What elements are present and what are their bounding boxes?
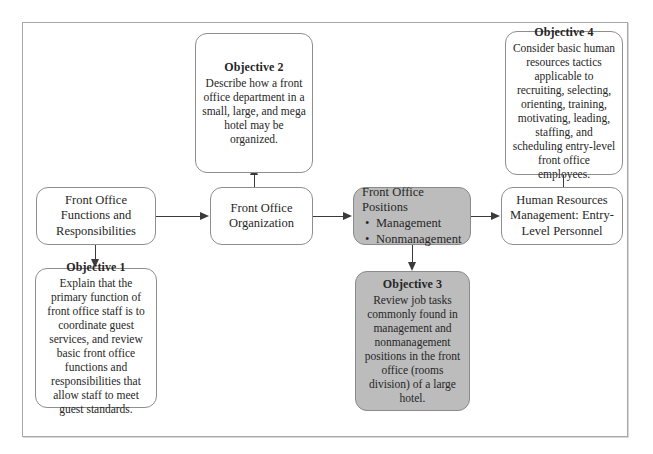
node-objective-4[interactable]: Objective 4 Consider basic human resourc… <box>505 31 623 175</box>
list-item-label: Management <box>376 216 441 230</box>
node-objective-2-title: Objective 2 <box>224 60 283 75</box>
node-front-office-organization[interactable]: Front Office Organization <box>210 187 313 245</box>
node-front-office-functions[interactable]: Front Office Functions and Responsibilit… <box>36 187 156 245</box>
bullet-icon: • <box>365 216 369 232</box>
node-front-office-positions-list: •Management •Nonmanagement <box>362 216 461 247</box>
node-objective-1-title: Objective 1 <box>66 260 125 275</box>
list-item-label: Nonmanagement <box>376 232 461 246</box>
diagram-frame: Front Office Functions and Responsibilit… <box>22 22 628 437</box>
node-objective-4-body: Consider basic human resources tactics a… <box>512 41 616 181</box>
node-objective-1[interactable]: Objective 1 Explain that the primary fun… <box>35 268 157 408</box>
node-objective-2[interactable]: Objective 2 Describe how a front office … <box>195 33 313 173</box>
node-objective-4-title: Objective 4 <box>534 25 593 40</box>
node-human-resources-management-label: Human Resources Management: Entry-Level … <box>508 193 616 239</box>
node-front-office-positions[interactable]: Front Office Positions •Management •Nonm… <box>353 187 471 245</box>
node-front-office-positions-title: Front Office Positions <box>362 185 462 216</box>
node-objective-1-body: Explain that the primary function of fro… <box>42 276 150 416</box>
list-item: •Management <box>376 216 461 232</box>
node-objective-3[interactable]: Objective 3 Review job tasks commonly fo… <box>355 271 470 411</box>
node-objective-3-title: Objective 3 <box>383 277 442 292</box>
node-front-office-organization-label: Front Office Organization <box>217 201 306 232</box>
node-objective-2-body: Describe how a front office department i… <box>202 76 306 146</box>
list-item: •Nonmanagement <box>376 232 461 248</box>
node-front-office-functions-label: Front Office Functions and Responsibilit… <box>43 193 149 239</box>
node-human-resources-management[interactable]: Human Resources Management: Entry-Level … <box>501 187 623 245</box>
bullet-icon: • <box>365 232 369 248</box>
node-objective-3-body: Review job tasks commonly found in manag… <box>362 293 463 405</box>
